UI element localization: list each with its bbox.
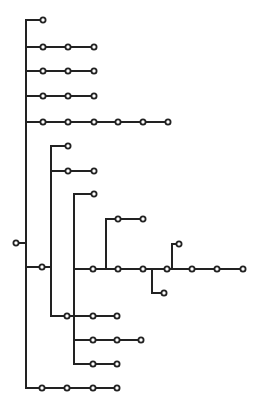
tree-node <box>40 119 45 124</box>
tree-node <box>91 93 96 98</box>
tree-node <box>165 119 170 124</box>
tree-diagram <box>0 0 262 406</box>
tree-node <box>91 191 96 196</box>
tree-node <box>176 241 181 246</box>
tree-node <box>40 17 45 22</box>
tree-node <box>140 119 145 124</box>
tree-node <box>40 93 45 98</box>
tree-node <box>115 216 120 221</box>
tree-node <box>114 361 119 366</box>
tree-node <box>65 119 70 124</box>
tree-node <box>140 216 145 221</box>
tree-edges <box>16 20 243 388</box>
tree-node <box>138 337 143 342</box>
tree-nodes <box>13 17 245 390</box>
tree-node <box>65 44 70 49</box>
tree-node <box>64 313 69 318</box>
tree-node <box>65 93 70 98</box>
tree-node <box>114 337 119 342</box>
tree-node <box>115 266 120 271</box>
tree-node <box>90 361 95 366</box>
tree-node <box>65 68 70 73</box>
tree-node <box>115 119 120 124</box>
tree-node <box>65 143 70 148</box>
tree-node <box>39 385 44 390</box>
tree-node <box>164 266 169 271</box>
tree-node <box>90 337 95 342</box>
tree-node <box>214 266 219 271</box>
tree-node <box>39 264 44 269</box>
tree-node <box>64 385 69 390</box>
tree-node <box>40 44 45 49</box>
tree-node <box>114 313 119 318</box>
tree-node <box>91 119 96 124</box>
tree-node <box>140 266 145 271</box>
tree-node <box>90 385 95 390</box>
tree-node <box>40 68 45 73</box>
root-node <box>13 240 18 245</box>
tree-node <box>161 290 166 295</box>
tree-node <box>91 68 96 73</box>
tree-node <box>90 266 95 271</box>
tree-node <box>91 44 96 49</box>
tree-node <box>91 168 96 173</box>
tree-node <box>189 266 194 271</box>
tree-node <box>65 168 70 173</box>
tree-node <box>240 266 245 271</box>
tree-node <box>114 385 119 390</box>
tree-node <box>90 313 95 318</box>
